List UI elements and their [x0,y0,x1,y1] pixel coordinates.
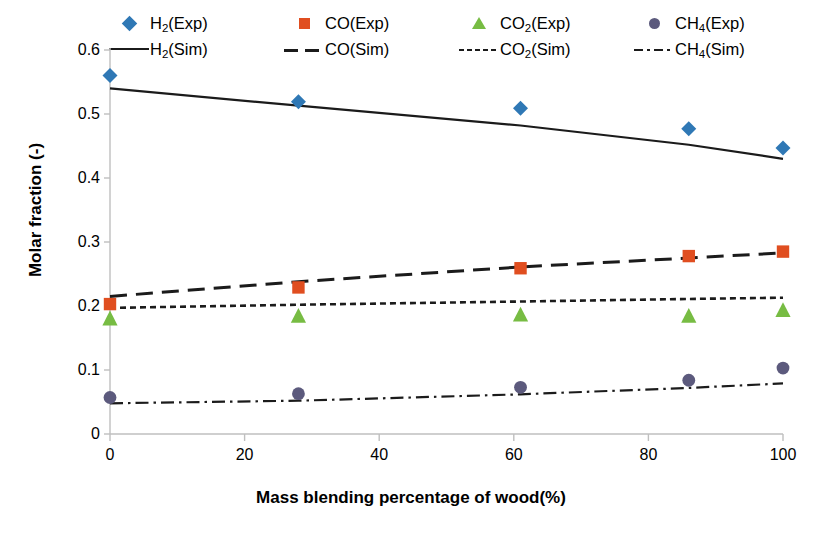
data-point-ch4exp-28 [292,387,305,400]
data-point-h2exp-61 [513,101,528,116]
series-line-h2sim [110,88,783,158]
data-point-co2exp-61 [513,307,528,322]
data-point-co2exp-0 [102,311,117,326]
data-point-h2exp-86 [681,121,696,136]
data-point-coexp-86 [683,250,695,262]
series-line-cosim [110,253,783,297]
data-point-co2exp-100 [775,302,790,317]
data-point-h2exp-100 [776,140,791,155]
data-point-co2exp-28 [291,308,306,323]
series-line-co2sim [110,298,783,308]
series-line-ch4sim [110,383,783,403]
data-point-coexp-61 [514,262,526,274]
data-point-ch4exp-100 [777,362,790,375]
chart-figure: H2(Exp)CO(Exp)CO2(Exp)CH4(Exp) H2(Sim)CO… [0,0,822,533]
data-point-ch4exp-61 [514,381,527,394]
plot-area [0,0,822,533]
data-point-coexp-0 [104,298,116,310]
data-point-coexp-100 [777,245,789,257]
data-point-h2exp-0 [103,68,118,83]
data-point-coexp-28 [292,281,304,293]
data-point-ch4exp-0 [104,391,117,404]
data-point-ch4exp-86 [682,374,695,387]
data-point-co2exp-86 [681,308,696,323]
